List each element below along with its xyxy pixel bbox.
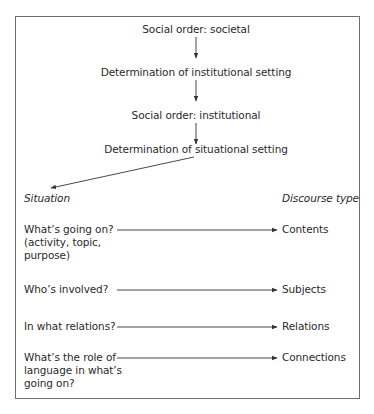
situation-role-of-language: What’s the role of language in what’s go…	[24, 351, 122, 390]
discourse-connections: Connections	[282, 351, 346, 364]
situation-whats-going-on: What’s going on? (activity, topic, purpo…	[24, 223, 113, 262]
situation-whos-involved: Who’s involved?	[24, 283, 108, 296]
discourse-relations: Relations	[282, 320, 329, 333]
header-discourse-type: Discourse type	[282, 192, 359, 205]
node-institutional-setting: Determination of institutional setting	[101, 66, 292, 79]
node-social-order-societal: Social order: societal	[142, 23, 249, 36]
node-situational-setting: Determination of situational setting	[104, 143, 288, 156]
arrow-diagonal	[51, 157, 194, 188]
node-social-order-institutional: Social order: institutional	[132, 109, 261, 122]
header-situation: Situation	[24, 192, 70, 205]
discourse-contents: Contents	[282, 223, 328, 236]
discourse-subjects: Subjects	[282, 283, 326, 296]
situation-in-what-relations: In what relations?	[24, 320, 115, 333]
